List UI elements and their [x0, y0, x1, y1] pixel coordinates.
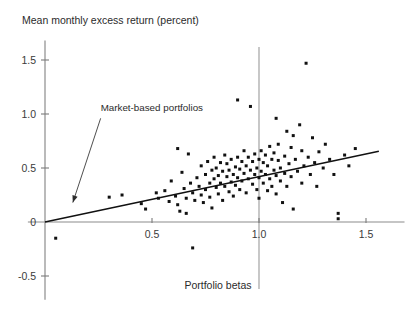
data-point [279, 179, 282, 182]
data-point [281, 201, 284, 204]
data-point [343, 154, 346, 157]
data-point [287, 162, 290, 165]
x-tick-label: 1.0 [252, 228, 267, 240]
data-point [140, 202, 143, 205]
data-point [251, 183, 254, 186]
y-tick-label: 0.5 [21, 162, 36, 174]
data-point [305, 62, 308, 65]
data-point [180, 171, 183, 174]
scatter-plot: -0.500.51.01.50.51.01.5 Market-based por… [0, 0, 414, 319]
data-point [245, 164, 248, 167]
data-point [337, 212, 340, 215]
data-point [260, 149, 263, 152]
data-point [262, 161, 265, 164]
data-point [277, 143, 280, 146]
data-point [223, 185, 226, 188]
data-point [213, 156, 216, 159]
data-point [277, 159, 280, 162]
fit-line-group [45, 151, 379, 222]
data-point [328, 158, 331, 161]
data-point [208, 182, 211, 185]
data-point [238, 188, 241, 191]
data-point [290, 146, 293, 149]
x-tick-label: 1.5 [359, 228, 374, 240]
x-axis-title: Portfolio betas [184, 279, 251, 291]
data-point [185, 212, 188, 215]
data-point [225, 162, 228, 165]
data-point [354, 147, 357, 150]
data-point [215, 167, 218, 170]
data-point [264, 154, 267, 157]
data-point [300, 149, 303, 152]
axes-group [28, 41, 405, 300]
data-point [223, 154, 226, 157]
annotation-arrow-head [72, 195, 77, 202]
data-point [225, 175, 228, 178]
data-point [228, 190, 231, 193]
data-point [275, 192, 278, 195]
annotation-arrow-shaft [73, 118, 101, 202]
data-point [202, 201, 205, 204]
data-point [292, 134, 295, 137]
data-point [249, 105, 252, 108]
data-point [176, 203, 179, 206]
data-point [258, 197, 261, 200]
data-point [251, 160, 254, 163]
data-point [200, 194, 203, 197]
data-point [183, 187, 186, 190]
security-market-line [45, 151, 379, 222]
data-point [213, 177, 216, 180]
data-point [292, 208, 295, 211]
y-tick-label: 1.5 [21, 54, 36, 66]
data-point [272, 151, 275, 154]
data-point [315, 185, 318, 188]
data-point [191, 191, 194, 194]
data-point [270, 185, 273, 188]
ticks-group: -0.500.51.01.50.51.01.5 [18, 54, 374, 282]
data-point [275, 174, 278, 177]
data-point [206, 160, 209, 163]
data-point [208, 196, 211, 199]
data-point [238, 168, 241, 171]
data-point [221, 170, 224, 173]
data-point [262, 182, 265, 185]
data-point [191, 246, 194, 249]
data-point [217, 174, 220, 177]
data-point [337, 217, 340, 220]
data-point [283, 155, 286, 158]
data-point [234, 184, 237, 187]
data-point [245, 191, 248, 194]
data-point [253, 173, 256, 176]
data-point [195, 176, 198, 179]
data-point [253, 152, 256, 155]
data-point [266, 164, 269, 167]
y-tick-label: 1.0 [21, 108, 36, 120]
data-point [307, 156, 310, 159]
data-point [283, 172, 286, 175]
data-point [258, 158, 261, 161]
data-point [347, 164, 350, 167]
data-point [268, 177, 271, 180]
data-point [144, 208, 147, 211]
y-tick-label: 0 [30, 216, 36, 228]
data-point [275, 117, 278, 120]
data-point [217, 192, 220, 195]
data-point [236, 156, 239, 159]
data-point [176, 147, 179, 150]
y-tick-label: -0.5 [18, 270, 36, 282]
data-point [121, 194, 124, 197]
data-point [168, 200, 171, 203]
data-point [298, 123, 301, 126]
data-point [230, 158, 233, 161]
data-point [236, 176, 239, 179]
x-tick-label: 0.5 [145, 228, 160, 240]
data-point [108, 196, 111, 199]
data-point [200, 164, 203, 167]
data-point [232, 195, 235, 198]
axis-labels-group: Mean monthly excess return (percent)Port… [22, 14, 252, 291]
data-point [219, 161, 222, 164]
data-point [163, 189, 166, 192]
data-point [240, 160, 243, 163]
data-point [234, 165, 237, 168]
annotation-label: Market-based portfolios [101, 102, 203, 113]
